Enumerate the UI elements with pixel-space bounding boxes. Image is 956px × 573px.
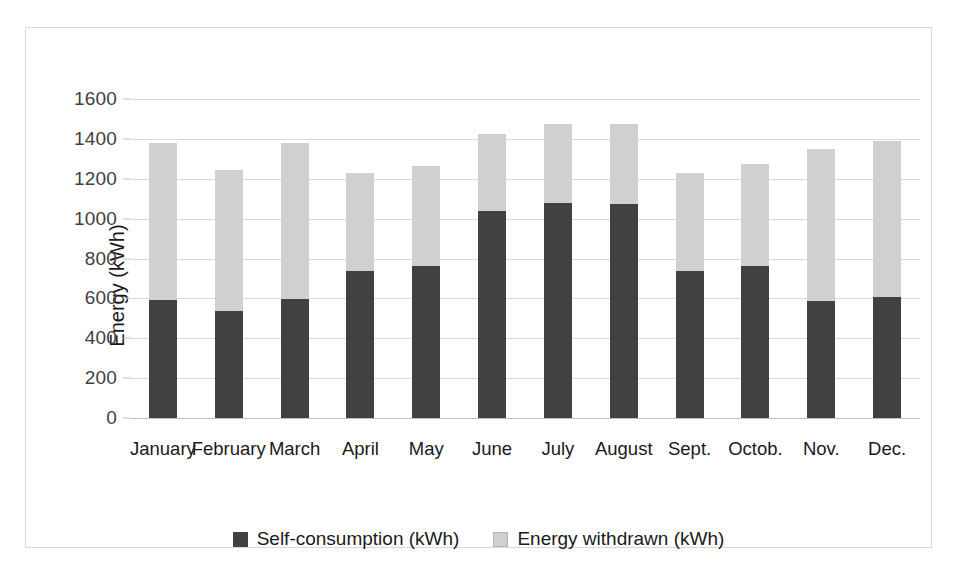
bar-segment-self-consumption[interactable] xyxy=(807,301,835,418)
bar-segment-energy-withdrawn[interactable] xyxy=(281,143,309,300)
y-tick-label-1000: 1000 xyxy=(74,208,117,230)
x-axis-label-may: May xyxy=(409,438,444,460)
y-tick-mark-1000 xyxy=(123,218,130,219)
bar-segment-energy-withdrawn[interactable] xyxy=(346,173,374,272)
bar-group[interactable] xyxy=(741,164,769,418)
bar-group[interactable] xyxy=(412,166,440,418)
x-axis-label-dec: Dec. xyxy=(868,438,906,460)
bar-segment-energy-withdrawn[interactable] xyxy=(741,164,769,267)
bar-group[interactable] xyxy=(676,173,704,418)
legend-swatch-icon xyxy=(233,532,248,547)
y-tick-label-200: 200 xyxy=(85,367,117,389)
y-tick-label-400: 400 xyxy=(85,327,117,349)
x-axis-label-march: March xyxy=(269,438,320,460)
gridline-0 xyxy=(130,418,920,419)
legend-item[interactable]: Self-consumption (kWh) xyxy=(233,528,460,550)
y-tick-label-1400: 1400 xyxy=(74,128,117,150)
bar-segment-self-consumption[interactable] xyxy=(281,299,309,418)
bar-segment-self-consumption[interactable] xyxy=(478,211,506,418)
bar-segment-self-consumption[interactable] xyxy=(412,266,440,418)
x-axis-label-july: July xyxy=(541,438,574,460)
bar-segment-energy-withdrawn[interactable] xyxy=(873,141,901,298)
bar-segment-self-consumption[interactable] xyxy=(873,297,901,418)
bar-segment-energy-withdrawn[interactable] xyxy=(412,166,440,267)
bar-segment-energy-withdrawn[interactable] xyxy=(149,143,177,301)
chart-frame: Energy (kWh) 020040060080010001200140016… xyxy=(25,27,932,548)
x-axis-label-sept: Sept. xyxy=(668,438,711,460)
y-tick-mark-1600 xyxy=(123,99,130,100)
x-axis-label-january: January xyxy=(130,438,196,460)
y-tick-mark-800 xyxy=(123,258,130,259)
y-tick-label-600: 600 xyxy=(85,287,117,309)
bar-series xyxy=(130,99,920,418)
bar-group[interactable] xyxy=(281,143,309,418)
bar-segment-self-consumption[interactable] xyxy=(149,300,177,418)
legend-label: Self-consumption (kWh) xyxy=(257,528,460,550)
bar-segment-energy-withdrawn[interactable] xyxy=(676,173,704,272)
bar-segment-self-consumption[interactable] xyxy=(610,204,638,418)
bar-segment-energy-withdrawn[interactable] xyxy=(544,124,572,203)
bar-segment-self-consumption[interactable] xyxy=(346,271,374,418)
y-tick-mark-1200 xyxy=(123,178,130,179)
bar-group[interactable] xyxy=(873,141,901,418)
y-tick-label-0: 0 xyxy=(106,407,117,429)
legend-swatch-icon xyxy=(493,532,508,547)
y-tick-mark-200 xyxy=(123,378,130,379)
x-axis-label-april: April xyxy=(342,438,379,460)
bar-group[interactable] xyxy=(149,143,177,418)
bar-segment-self-consumption[interactable] xyxy=(215,311,243,418)
bar-segment-energy-withdrawn[interactable] xyxy=(610,124,638,204)
bar-group[interactable] xyxy=(610,124,638,418)
y-tick-mark-600 xyxy=(123,298,130,299)
bar-group[interactable] xyxy=(807,149,835,418)
y-tick-label-800: 800 xyxy=(85,248,117,270)
legend-item[interactable]: Energy withdrawn (kWh) xyxy=(493,528,724,550)
bar-group[interactable] xyxy=(346,173,374,418)
bar-segment-energy-withdrawn[interactable] xyxy=(478,134,506,211)
bar-segment-energy-withdrawn[interactable] xyxy=(807,149,835,302)
x-axis-label-june: June xyxy=(472,438,512,460)
x-axis-label-august: August xyxy=(595,438,653,460)
bar-segment-self-consumption[interactable] xyxy=(676,271,704,418)
bar-segment-energy-withdrawn[interactable] xyxy=(215,170,243,312)
bar-group[interactable] xyxy=(544,124,572,418)
x-axis-label-nov: Nov. xyxy=(803,438,840,460)
y-tick-label-1200: 1200 xyxy=(74,168,117,190)
y-tick-mark-1400 xyxy=(123,138,130,139)
y-tick-mark-400 xyxy=(123,338,130,339)
bar-group[interactable] xyxy=(478,134,506,418)
bar-segment-self-consumption[interactable] xyxy=(544,203,572,418)
y-tick-mark-0 xyxy=(123,418,130,419)
x-axis-label-february: February xyxy=(192,438,266,460)
bar-segment-self-consumption[interactable] xyxy=(741,266,769,418)
y-tick-label-1600: 1600 xyxy=(74,88,117,110)
bar-group[interactable] xyxy=(215,170,243,418)
plot-area: 02004006008001000120014001600 JanuaryFeb… xyxy=(130,99,920,418)
chart-legend: Self-consumption (kWh)Energy withdrawn (… xyxy=(26,528,931,550)
legend-label: Energy withdrawn (kWh) xyxy=(517,528,724,550)
x-axis-label-octob: Octob. xyxy=(728,438,783,460)
